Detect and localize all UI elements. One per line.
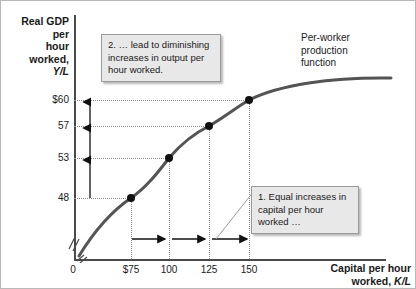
x-axis-title-symbol: K/L [394, 275, 411, 287]
curve-label: Per-worker production function [301, 32, 401, 70]
x-axis-title: Capital per hour worked, K/L [293, 262, 411, 287]
x-tick-label-100: 100 [147, 264, 191, 275]
x-axis-title-line1: Capital per hour [330, 262, 411, 274]
figure-container: Real GDP per hour worked, Y/L Capital pe… [0, 0, 416, 289]
origin-label: 0 [63, 264, 83, 275]
x-axis-title-line2: worked, [351, 275, 394, 287]
callout-equal-capital-increases: 1. Equal increases in capital per hour w… [251, 186, 359, 234]
curve-label-line3: function [301, 57, 336, 68]
y-axis-title: Real GDP per hour worked, Y/L [5, 15, 69, 78]
y-axis-title-line1: Real GDP per [21, 15, 69, 40]
curve-label-line1: Per-worker [301, 32, 350, 43]
callout-diminishing-output: 2. … lead to diminishing increases in ou… [101, 34, 221, 82]
y-axis-title-line2: hour worked, [29, 40, 69, 65]
curve-label-line2: production [301, 45, 348, 56]
x-tick-label-125: 125 [187, 264, 231, 275]
y-tick-label-48: 48 [23, 192, 69, 203]
y-tick-label-60: $60 [23, 94, 69, 105]
y-tick-label-57: 57 [23, 120, 69, 131]
y-axis-title-symbol: Y/L [53, 65, 69, 77]
x-tick-label-150: 150 [227, 264, 271, 275]
y-tick-label-53: 53 [23, 152, 69, 163]
